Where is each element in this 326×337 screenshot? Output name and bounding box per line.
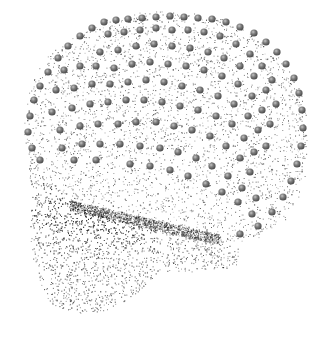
landmark-sphere — [152, 118, 159, 125]
landmark-sphere — [76, 62, 83, 69]
landmark-sphere — [287, 177, 294, 184]
landmark-sphere — [44, 68, 51, 75]
landmark-sphere — [126, 160, 133, 167]
landmark-sphere — [279, 193, 286, 200]
landmark-sphere — [174, 148, 181, 155]
landmark-sphere — [114, 46, 121, 53]
landmark-sphere — [262, 142, 269, 149]
landmark-sphere — [258, 62, 265, 69]
landmark-sphere — [70, 156, 77, 163]
landmark-sphere — [100, 18, 107, 25]
landmark-sphere — [68, 104, 75, 111]
landmark-sphere — [236, 62, 243, 69]
landmark-sphere — [222, 18, 229, 25]
landmark-sphere — [166, 166, 173, 173]
landmark-sphere — [112, 16, 119, 23]
landmark-sphere — [52, 86, 59, 93]
landmark-sphere — [138, 14, 145, 21]
landmark-sphere — [184, 26, 191, 33]
landmark-sphere — [268, 76, 275, 83]
landmark-sphere — [290, 74, 297, 81]
skull-point-cloud — [0, 0, 326, 337]
landmark-sphere — [146, 58, 153, 65]
landmark-sphere — [240, 134, 247, 141]
landmark-sphere — [222, 142, 229, 149]
landmark-sphere — [244, 112, 251, 119]
landmark-sphere — [216, 32, 223, 39]
landmark-sphere — [180, 13, 187, 20]
landmark-sphere — [70, 84, 77, 91]
landmark-sphere — [110, 64, 117, 71]
landmark-sphere — [28, 144, 35, 151]
landmark-sphere — [254, 222, 261, 229]
landmark-sphere — [132, 118, 139, 125]
landmark-sphere — [158, 98, 165, 105]
landmark-sphere — [230, 100, 237, 107]
landmark-sphere — [78, 140, 85, 147]
landmark-sphere — [120, 28, 127, 35]
landmark-sphere — [252, 194, 259, 201]
landmark-sphere — [156, 144, 163, 151]
landmark-sphere — [186, 44, 193, 51]
landmark-sphere — [258, 106, 265, 113]
landmark-sphere — [54, 54, 61, 61]
landmark-sphere — [297, 142, 304, 149]
landmark-sphere — [298, 106, 305, 113]
landmark-sphere — [88, 24, 95, 31]
landmark-sphere — [150, 40, 157, 47]
landmark-sphere — [262, 86, 269, 93]
landmark-sphere — [236, 23, 243, 30]
landmark-sphere — [124, 78, 131, 85]
landmark-sphere — [128, 60, 135, 67]
landmark-sphere — [168, 42, 175, 49]
landmark-sphere — [200, 66, 207, 73]
landmark-sphere — [76, 32, 83, 39]
landmark-sphere — [196, 86, 203, 93]
landmark-sphere — [152, 24, 159, 31]
landmark-sphere — [122, 96, 129, 103]
landmark-sphere — [164, 60, 171, 67]
landmark-sphere — [192, 154, 199, 161]
landmark-sphere — [26, 112, 33, 119]
landmark-sphere — [246, 50, 253, 57]
landmark-sphere — [104, 98, 111, 105]
landmark-sphere — [142, 76, 149, 83]
landmark-sphere — [96, 140, 103, 147]
landmark-sphere — [250, 29, 257, 36]
landmark-sphere — [236, 230, 243, 237]
landmark-sphere — [184, 172, 191, 179]
landmark-sphere — [140, 96, 147, 103]
landmark-sphere — [132, 42, 139, 49]
landmark-sphere — [124, 15, 131, 22]
landmark-sphere — [208, 162, 215, 169]
landmark-sphere — [30, 96, 37, 103]
landmark-sphere — [246, 168, 253, 175]
landmark-sphere — [176, 102, 183, 109]
landmark-sphere — [114, 120, 121, 127]
landmark-sphere — [48, 108, 55, 115]
landmark-sphere — [250, 72, 257, 79]
landmark-sphere — [202, 180, 209, 187]
landmark-sphere — [96, 48, 103, 55]
landmark-sphere — [76, 122, 83, 129]
landmark-sphere — [200, 28, 207, 35]
landmark-sphere — [262, 38, 269, 45]
landmark-sphere — [88, 80, 95, 87]
landmark-sphere — [56, 126, 63, 133]
landmark-sphere — [166, 12, 173, 19]
landmark-sphere — [206, 132, 213, 139]
landmark-sphere — [60, 66, 67, 73]
landmark-sphere — [254, 126, 261, 133]
landmark-sphere — [36, 82, 43, 89]
landmark-sphere — [236, 154, 243, 161]
landmark-sphere — [146, 162, 153, 169]
landmark-sphere — [293, 160, 300, 167]
landmark-sphere — [116, 140, 123, 147]
landmark-sphere — [282, 60, 289, 67]
landmark-sphere — [208, 15, 215, 22]
landmark-sphere — [24, 128, 31, 135]
landmark-sphere — [94, 120, 101, 127]
landmark-sphere — [36, 156, 43, 163]
landmark-sphere — [106, 80, 113, 87]
landmark-sphere — [160, 78, 167, 85]
